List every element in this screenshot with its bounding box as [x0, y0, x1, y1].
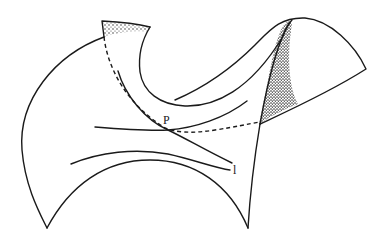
- right-lower-edge: [248, 124, 260, 228]
- curve-upper-through-p: [118, 71, 232, 163]
- left-outer-edge: [22, 37, 104, 228]
- bottom-inner-edge: [47, 160, 248, 228]
- line-l-label: l: [233, 163, 237, 177]
- curve-across-p: [95, 101, 247, 130]
- point-p-label: P: [163, 113, 170, 127]
- hidden-dashed-curve: [104, 37, 260, 132]
- saddle-surface-diagram: P l: [0, 0, 379, 239]
